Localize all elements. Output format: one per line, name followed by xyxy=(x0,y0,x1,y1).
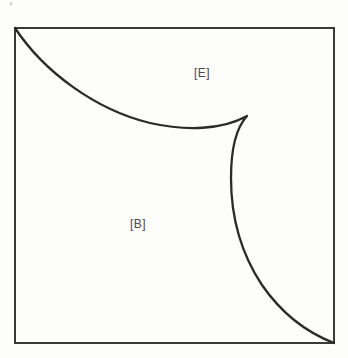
region-label-e: [E] xyxy=(194,66,210,80)
region-label-b: [B] xyxy=(130,217,146,231)
region-diagram-svg xyxy=(0,0,348,358)
figure-container: [E] [B] xyxy=(0,0,348,358)
cusp-boundary-curve xyxy=(15,28,334,343)
diagram-frame-border xyxy=(15,28,334,343)
